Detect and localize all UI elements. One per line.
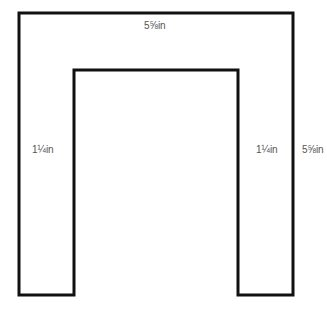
right-height-label: 5⅝in [302,144,324,156]
u-frame-outline [0,0,327,318]
top-width-label: 5⅝in [144,20,166,32]
right-leg-width-label: 1¼in [256,144,278,156]
frame-path [19,13,293,295]
left-leg-width-label: 1¼in [32,144,54,156]
